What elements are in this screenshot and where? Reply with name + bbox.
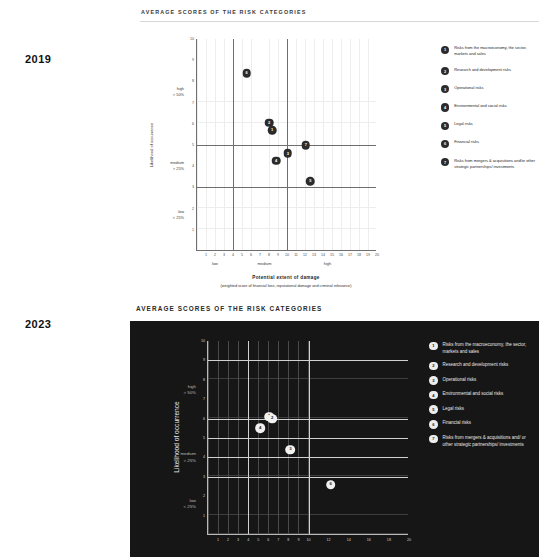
legend-marker-icon: 4 <box>441 103 449 111</box>
data-point-marker[interactable]: 7 <box>302 141 311 150</box>
y-axis-tick-2019: 3 <box>192 185 194 189</box>
y-axis-tick-2019: 9 <box>192 58 194 62</box>
data-point-marker[interactable]: 2 <box>268 414 278 424</box>
scatter-plot-2019: 1234567891012345678910111213141516171819… <box>196 39 376 251</box>
x-axis-tick-2019: 20 <box>375 253 379 257</box>
x-axis-tick-2019: 10 <box>285 253 289 257</box>
legend-item[interactable]: 4Environmental and social risks <box>429 390 533 399</box>
legend-item[interactable]: 7Risks from mergers & acquisitions and/ … <box>429 434 533 449</box>
x-axis-tick-2019: 6 <box>250 253 252 257</box>
legend-item[interactable]: 1Risks from the macroeconomy, the sector… <box>429 341 533 356</box>
y-axis-tick-2023: 3 <box>203 475 205 479</box>
x-axis-tick-2019: 4 <box>232 253 234 257</box>
data-point-marker[interactable]: 1 <box>268 126 277 135</box>
year-label-2023: 2023 <box>25 318 51 330</box>
y-axis-tick-2023: 9 <box>203 358 205 362</box>
x-axis-tick-2019: 15 <box>330 253 334 257</box>
x-axis-tick-2019: 9 <box>277 253 279 257</box>
legend-item-label: Financial risks <box>443 419 472 428</box>
x-axis-tick-2019: 17 <box>348 253 352 257</box>
y-axis-band-label-2019: high> 50% <box>173 86 184 97</box>
data-point-marker[interactable]: 4 <box>272 157 281 166</box>
legend-item-label: Legal risks <box>454 121 473 130</box>
legend-item[interactable]: 5Legal risks <box>441 121 536 130</box>
legend-marker-icon: 2 <box>429 362 438 371</box>
data-point-marker[interactable]: 6 <box>326 480 336 490</box>
legend-item-label: Operational risks <box>443 376 477 385</box>
y-axis-tick-2019: 7 <box>192 101 194 105</box>
legend-item[interactable]: 3Operational risks <box>441 85 536 94</box>
y-axis-label-2019: Likelihood of occurrence <box>149 123 155 167</box>
legend-item-label: Environmental and social risks <box>454 103 507 112</box>
x-axis-tick-2019: 3 <box>223 253 225 257</box>
y-axis-label-2023: Likelihood of occurrence <box>173 401 180 472</box>
x-axis-tick-2023: 10 <box>306 538 310 542</box>
legend-item[interactable]: 7Risks from mergers & acquisitions and/o… <box>441 158 536 170</box>
data-point-marker[interactable]: 5 <box>306 177 315 186</box>
legend-marker-icon: 7 <box>429 435 438 444</box>
legend-item[interactable]: 2Research and development risks <box>441 67 536 76</box>
major-gridline-vertical <box>248 341 249 534</box>
y-axis-tick-2019: 2 <box>192 207 194 211</box>
y-axis-tick-2023: 1 <box>203 514 205 518</box>
legend-marker-icon: 3 <box>429 376 438 385</box>
legend-item[interactable]: 5Legal risks <box>429 405 533 414</box>
y-axis-tick-2023: 2 <box>203 494 205 498</box>
legend-item[interactable]: 6Financial risks <box>429 419 533 428</box>
quadrant-line-horizontal <box>197 145 376 146</box>
legend-item-label: Financial risks <box>454 139 479 148</box>
data-point-marker[interactable]: 3 <box>286 445 296 455</box>
data-point-marker[interactable]: 3 <box>284 149 293 158</box>
legend-item[interactable]: 2Research and development risks <box>429 361 533 370</box>
x-axis-tick-2019: 11 <box>294 253 298 257</box>
legend-marker-icon: 3 <box>441 85 449 93</box>
legend-marker-icon: 5 <box>441 122 449 130</box>
x-axis-band-label-2019: medium <box>258 261 272 266</box>
legend-item[interactable]: 4Environmental and social risks <box>441 103 536 112</box>
x-axis-tick-2019: 7 <box>259 253 261 257</box>
x-axis-tick-2023: 14 <box>347 538 351 542</box>
legend-marker-icon: 6 <box>441 140 449 148</box>
x-axis-tick-2023: 2 <box>227 538 229 542</box>
y-axis-tick-2019: 8 <box>192 79 194 83</box>
legend-item[interactable]: 6Financial risks <box>441 139 536 148</box>
legend-marker-icon: 7 <box>441 158 449 166</box>
legend-item-label: Operational risks <box>454 85 483 94</box>
scatter-plot-2023: 12345678910123456789101214161820high> 50… <box>207 341 408 535</box>
legend-item-label: Risks from mergers & acquisitions and/ o… <box>443 434 533 449</box>
x-axis-tick-2023: 5 <box>257 538 259 542</box>
x-axis-tick-2019: 16 <box>339 253 343 257</box>
x-axis-tick-2019: 2 <box>214 253 216 257</box>
legend-marker-icon: 4 <box>429 391 438 400</box>
x-axis-tick-2023: 12 <box>327 538 331 542</box>
x-axis-tick-2023: 8 <box>287 538 289 542</box>
x-axis-tick-2023: 20 <box>407 538 411 542</box>
x-axis-tick-2023: 9 <box>297 538 299 542</box>
quadrant-line-horizontal <box>197 187 376 188</box>
title-divider <box>140 21 539 22</box>
x-axis-tick-2023: 6 <box>267 538 269 542</box>
data-point-marker[interactable]: 6 <box>242 69 251 78</box>
x-axis-tick-2023: 16 <box>367 538 371 542</box>
x-axis-tick-2019: 5 <box>241 253 243 257</box>
x-axis-tick-2019: 1 <box>205 253 207 257</box>
x-axis-tick-2023: 1 <box>217 538 219 542</box>
x-axis-tick-2019: 12 <box>303 253 307 257</box>
legend-marker-icon: 6 <box>429 420 438 429</box>
y-axis-band-label-2019: medium> 25% <box>170 161 184 172</box>
legend-item[interactable]: 1Risks from the macroeconomy, the sector… <box>441 45 536 57</box>
chart-title-2019: AVERAGE SCORES OF THE RISK CATEGORIES <box>141 9 306 15</box>
chart-title-2023: AVERAGE SCORES OF THE RISK CATEGORIES <box>136 305 322 312</box>
data-point-marker[interactable]: 4 <box>255 424 265 434</box>
legend-item-label: Environmental and social risks <box>443 390 504 399</box>
y-axis-tick-2023: 10 <box>201 339 205 343</box>
y-axis-band-label-2023: medium> 25% <box>180 451 196 464</box>
x-axis-tick-2019: 14 <box>321 253 325 257</box>
legend-marker-icon: 2 <box>441 67 449 75</box>
legend-marker-icon: 1 <box>429 342 438 351</box>
x-axis-band-label-2019: high <box>324 261 331 266</box>
legend-item[interactable]: 3Operational risks <box>429 376 533 385</box>
y-axis-tick-2019: 5 <box>192 143 194 147</box>
y-axis-band-label-2023: low< 25% <box>183 498 196 511</box>
y-axis-tick-2023: 5 <box>203 436 205 440</box>
